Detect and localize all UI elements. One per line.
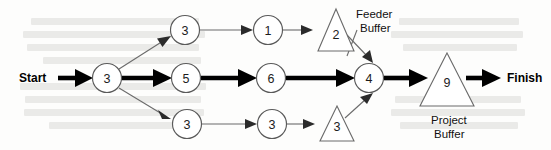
task-node-bottom-3b[interactable]: 3 xyxy=(258,110,287,139)
feeder-buffer-node-top[interactable]: 2 xyxy=(318,9,354,51)
edge-start-to-mid1 xyxy=(121,69,172,87)
task-duration-label: 3 xyxy=(104,72,111,86)
edge-top1-to-top2 xyxy=(200,25,253,35)
task-node-mid-5[interactable]: 5 xyxy=(172,64,201,93)
feeder-buffer-node-bottom[interactable]: 3 xyxy=(320,106,354,141)
edge-start-to-bot1 xyxy=(119,88,171,119)
task-node-start-3[interactable]: 3 xyxy=(93,64,122,93)
edge-bot2-to-feeder-buffer xyxy=(287,119,315,129)
task-duration-label: 3 xyxy=(269,118,276,132)
buffer-duration-label: 9 xyxy=(444,76,451,90)
project-buffer-caption-line2: Buffer xyxy=(434,128,465,140)
buffer-duration-label: 3 xyxy=(334,120,341,134)
task-node-mid-6[interactable]: 6 xyxy=(257,64,286,93)
buffer-duration-label: 2 xyxy=(333,28,340,42)
finish-label: Finish xyxy=(507,71,542,85)
edge-bot1-to-bot2 xyxy=(202,119,257,129)
start-label: Start xyxy=(19,71,46,85)
task-duration-label: 4 xyxy=(366,72,373,86)
network-diagram-svg: 3 3 1 5 6 4 3 xyxy=(0,0,551,150)
edge-start-to-top1 xyxy=(119,36,171,69)
edge-mid2-to-merge xyxy=(286,69,355,87)
task-duration-label: 5 xyxy=(183,72,190,86)
task-node-top-1[interactable]: 1 xyxy=(254,16,283,45)
task-duration-label: 3 xyxy=(184,118,191,132)
task-node-merge-4[interactable]: 4 xyxy=(355,64,384,93)
task-duration-label: 6 xyxy=(268,72,275,86)
project-buffer-node[interactable]: 9 xyxy=(420,53,474,106)
edge-start-arrow xyxy=(58,69,93,87)
task-duration-label: 3 xyxy=(182,24,189,38)
feeder-buffer-caption-line1: Feeder xyxy=(356,8,393,20)
network-diagram-canvas: 3 3 1 5 6 4 3 xyxy=(0,0,551,150)
edge-mid1-to-mid2 xyxy=(201,69,257,87)
edge-top2-to-feeder-buffer xyxy=(283,25,313,35)
project-buffer-caption-line1: Project xyxy=(431,114,468,126)
edge-feeder-buffer-bottom-to-merge xyxy=(345,93,373,118)
feeder-buffer-caption-line2: Buffer xyxy=(360,22,391,34)
task-node-top-3[interactable]: 3 xyxy=(171,16,200,45)
task-duration-label: 1 xyxy=(265,24,272,38)
edge-project-buffer-to-finish xyxy=(466,69,501,87)
task-node-bottom-3a[interactable]: 3 xyxy=(173,110,202,139)
edge-merge-to-project-buffer xyxy=(384,69,428,87)
